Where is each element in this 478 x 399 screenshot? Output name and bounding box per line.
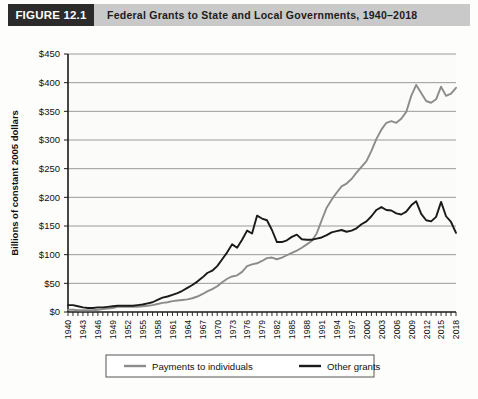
chart-canvas: $0$50$100$150$200$250$300$350$400$450 19… [0,28,478,399]
x-tick-label: 1958 [153,320,163,339]
y-tick-label: $350 [39,106,60,117]
x-tick-label: 2006 [392,320,402,339]
figure-header-bar: FIGURE 12.1 Federal Grants to State and … [8,4,470,26]
x-tick-label: 2003 [377,320,387,339]
x-tick-label: 1952 [123,320,133,339]
x-axis-tick-labels: 1940194319461949195219551958196119641967… [63,320,461,339]
x-tick-label: 1985 [287,320,297,339]
legend-label: Payments to individuals [152,361,253,372]
x-tick-label: 2009 [407,320,417,339]
x-tick-label: 1991 [317,320,327,339]
y-axis-title: Billions of constant 2005 dollars [9,110,20,256]
x-tick-label: 2000 [362,320,372,339]
x-tick-label: 1949 [108,320,118,339]
x-tick-label: 1979 [257,320,267,339]
line-chart: $0$50$100$150$200$250$300$350$400$450 19… [0,28,478,399]
figure-number-badge: FIGURE 12.1 [8,4,94,26]
y-axis-title-text: Billions of constant 2005 dollars [9,110,20,256]
x-tick-label: 1961 [168,320,178,339]
y-tick-label: $100 [39,249,60,260]
y-tick-label: $250 [39,163,60,174]
y-tick-label: $300 [39,134,60,145]
x-tick-label: 1997 [347,320,357,339]
x-tick-label: 1976 [242,320,252,339]
y-tick-label: $150 [39,220,60,231]
x-tick-label: 1946 [93,320,103,339]
y-tick-label: $0 [49,306,60,317]
legend-label: Other grants [327,361,381,372]
y-tick-label: $400 [39,77,60,88]
y-tick-label: $200 [39,192,60,203]
y-tick-label: $50 [44,278,60,289]
x-tick-label: 2015 [436,320,446,339]
x-tick-label: 1988 [302,320,312,339]
x-tick-label: 1943 [78,320,88,339]
x-tick-label: 1955 [138,320,148,339]
plot-background [68,54,456,312]
x-tick-label: 1964 [183,320,193,339]
x-tick-label: 1970 [213,320,223,339]
chart-legend: Payments to individualsOther grants [106,355,381,377]
x-tick-label: 1994 [332,320,342,339]
x-tick-label: 2018 [451,320,461,339]
y-tick-label: $450 [39,48,60,59]
figure-title: Federal Grants to State and Local Govern… [94,4,417,26]
x-tick-label: 2012 [422,320,432,339]
x-tick-label: 1940 [63,320,73,339]
x-tick-label: 1973 [228,320,238,339]
x-tick-label: 1967 [198,320,208,339]
y-axis-tick-labels: $0$50$100$150$200$250$300$350$400$450 [39,48,60,317]
x-tick-label: 1982 [272,320,282,339]
figure-container: FIGURE 12.1 Federal Grants to State and … [0,0,478,399]
